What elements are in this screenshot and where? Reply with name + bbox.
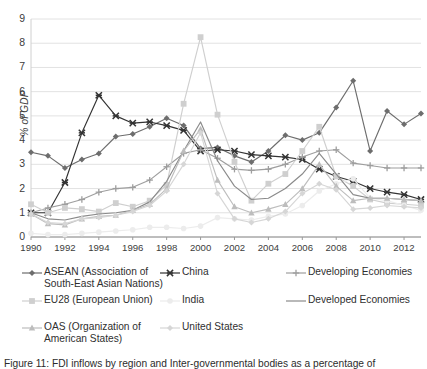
- x-tick-label: 2012: [387, 242, 421, 253]
- legend-marker-none-icon: [286, 295, 306, 307]
- legend-item-label[interactable]: ASEAN (Association of South-East Asian N…: [44, 266, 163, 289]
- x-tick-label: 1996: [116, 242, 150, 253]
- legend-item-label[interactable]: EU28 (European Union): [44, 294, 153, 306]
- x-tick-label: 1992: [48, 242, 82, 253]
- y-tick-label: 9: [3, 12, 25, 24]
- y-tick-label: 1: [3, 206, 25, 218]
- y-tick-label: 5: [3, 109, 25, 121]
- x-tick-label: 2010: [353, 242, 387, 253]
- y-tick-label: 3: [3, 157, 25, 169]
- legend-item-label[interactable]: China: [182, 266, 209, 278]
- legend-item-label[interactable]: United States: [182, 321, 243, 333]
- y-tick-label: 7: [3, 60, 25, 72]
- x-tick-label: 2008: [319, 242, 353, 253]
- legend-marker-square-icon: [22, 295, 42, 307]
- y-tick-label: 8: [3, 36, 25, 48]
- x-tick-label: 2002: [217, 242, 251, 253]
- x-tick-label: 2006: [285, 242, 319, 253]
- plot-area: % of GDP 0123456789 19901992199419961998…: [0, 0, 427, 262]
- legend-item-label[interactable]: Developing Economies: [308, 266, 412, 278]
- legend-marker-cross-icon: [160, 267, 180, 279]
- legend-marker-triangle-icon: [22, 322, 42, 334]
- legend-item-label[interactable]: Developed Economies: [308, 294, 410, 306]
- x-tick-label: 2004: [251, 242, 285, 253]
- chart-legend: ASEAN (Association of South-East Asian N…: [0, 264, 427, 352]
- legend-item-label[interactable]: India: [182, 294, 204, 306]
- legend-marker-diamond-icon: [22, 267, 42, 279]
- series-line: [28, 130, 424, 227]
- figure-caption: Figure 11: FDI inflows by region and Int…: [4, 358, 427, 369]
- y-tick-label: 0: [3, 230, 25, 242]
- legend-item-label[interactable]: OAS (Organization of American States): [44, 321, 141, 344]
- x-tick-label: 2000: [184, 242, 218, 253]
- chart-figure: % of GDP 0123456789 19901992199419961998…: [0, 0, 427, 369]
- y-tick-label: 4: [3, 133, 25, 145]
- x-tick-label: 1998: [150, 242, 184, 253]
- y-tick-label: 6: [3, 85, 25, 97]
- x-tick-label: 1990: [14, 242, 48, 253]
- legend-marker-dot-icon: [160, 295, 180, 307]
- y-tick-label: 2: [3, 182, 25, 194]
- series-line: [28, 126, 424, 228]
- legend-marker-plus-icon: [286, 267, 306, 279]
- legend-marker-diamond-icon: [160, 322, 180, 334]
- chart-canvas: [0, 0, 427, 262]
- x-tick-label: 1994: [82, 242, 116, 253]
